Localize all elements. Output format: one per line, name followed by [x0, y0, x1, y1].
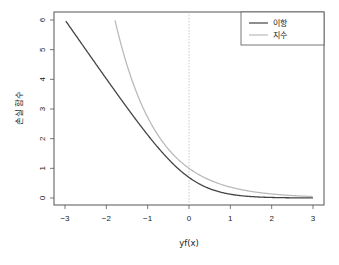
- y-axis: 0123456: [38, 17, 54, 200]
- binomial-loss-curve: [66, 21, 313, 198]
- y-tick-label: 4: [38, 77, 47, 82]
- x-axis: −3−2−10123: [60, 205, 315, 223]
- y-axis-label: 손실 함수: [14, 91, 24, 126]
- x-tick-label: −1: [143, 214, 153, 223]
- x-tick-label: 2: [269, 214, 274, 223]
- x-tick-label: 3: [311, 214, 316, 223]
- y-tick-label: 1: [38, 166, 47, 171]
- x-tick-label: −2: [102, 214, 112, 223]
- y-tick-label: 2: [38, 136, 47, 141]
- exponential-loss-curve: [115, 20, 313, 196]
- x-tick-label: 1: [228, 214, 233, 223]
- y-tick-label: 5: [38, 47, 47, 52]
- x-tick-label: 0: [187, 214, 192, 223]
- legend-label-exponential: 지수: [273, 31, 287, 40]
- series-layer: [66, 20, 313, 198]
- x-axis-label: yf(x): [179, 238, 199, 248]
- legend-box: [241, 12, 324, 45]
- loss-function-chart: −3−2−10123 0123456 yf(x) 손실 함수 이항 지수: [0, 0, 339, 265]
- y-tick-label: 3: [38, 106, 47, 111]
- y-tick-label: 0: [38, 195, 47, 200]
- x-tick-label: −3: [60, 214, 70, 223]
- legend-label-binomial: 이항: [273, 18, 288, 28]
- y-tick-label: 6: [38, 17, 47, 22]
- legend: 이항 지수: [241, 12, 324, 45]
